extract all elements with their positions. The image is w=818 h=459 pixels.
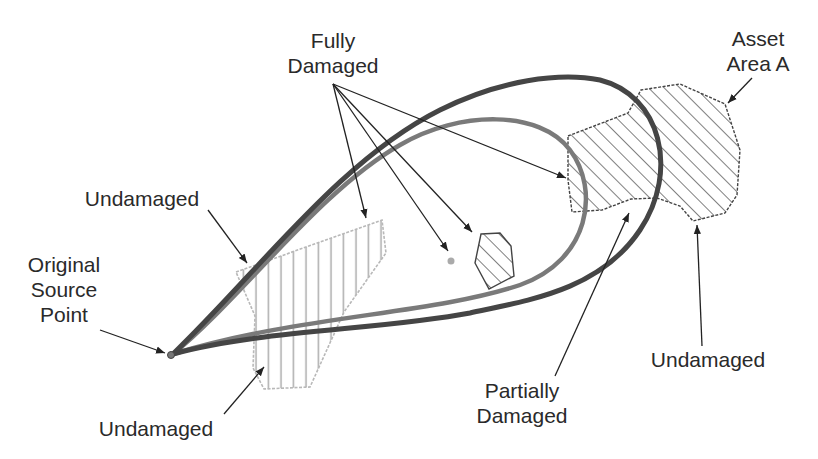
asset-area-a-arrow [728,78,752,103]
partially-damaged-arrow [555,213,629,376]
label-partially-damaged: Partially Damaged [462,378,582,428]
undamaged-right-arrow [697,225,702,346]
undamaged-bottom-left-arrow [224,367,264,414]
outer-damage-contour [173,77,661,354]
label-fully-damaged: Fully Damaged [268,28,398,78]
undamaged-top-left-arrow [208,210,247,263]
label-undamaged-bottom-left: Undamaged [86,416,226,441]
small-asset-polygon [475,233,514,289]
source-point-marker [168,352,175,359]
label-undamaged-top-left: Undamaged [72,186,212,211]
label-asset-area-a: Asset Area A [718,26,798,76]
point-target-marker [448,258,455,265]
source-point-arrow [100,330,165,353]
label-undamaged-right: Undamaged [638,347,778,372]
diagram-canvas [0,0,818,459]
light-asset-polygon [236,220,386,389]
label-original-source-point: Original Source Point [14,252,114,327]
